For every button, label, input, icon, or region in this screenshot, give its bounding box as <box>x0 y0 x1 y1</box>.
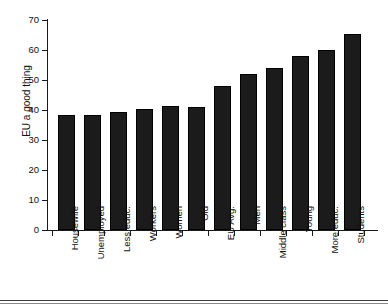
y-tick-0 <box>42 230 48 231</box>
x-label-women: Women <box>174 206 184 296</box>
y-tick-label-10: 10 <box>9 195 39 205</box>
y-tick-10 <box>42 200 48 201</box>
page-divider-rule <box>0 300 388 301</box>
page-divider-rule-secondary <box>0 303 388 304</box>
x-label-workers: Workers <box>148 206 158 296</box>
x-tick-0 <box>52 230 53 236</box>
x-label-unemployed: Unemployed <box>96 206 106 296</box>
x-label-more-educ: More educ. <box>330 206 340 296</box>
y-tick-label-70: 70 <box>9 15 39 25</box>
x-label-students: Students <box>356 206 366 296</box>
x-label-old: Old <box>200 206 210 296</box>
y-axis-title: EU a good thing <box>22 26 32 176</box>
bar-10 <box>318 50 335 230</box>
y-tick-30 <box>42 140 48 141</box>
y-tick-50 <box>42 80 48 81</box>
y-tick-60 <box>42 50 48 51</box>
x-label-housewife: Housewife <box>70 206 80 296</box>
bar-9 <box>292 56 309 230</box>
y-tick-70 <box>42 20 48 21</box>
x-label-young: Young <box>304 206 314 296</box>
x-label-less-educ: Less educ. <box>122 206 132 296</box>
x-label-men: Men <box>252 206 262 296</box>
bar-11 <box>344 34 361 231</box>
x-label-middle-class: Middle class <box>278 206 288 296</box>
y-tick-20 <box>42 170 48 171</box>
x-label-eu-avg: EU Avg. <box>226 206 236 296</box>
y-tick-label-0: 0 <box>9 225 39 235</box>
bar-chart-figure: 0 10 20 30 40 50 60 70 EU a good thing H… <box>0 0 388 308</box>
y-tick-40 <box>42 110 48 111</box>
